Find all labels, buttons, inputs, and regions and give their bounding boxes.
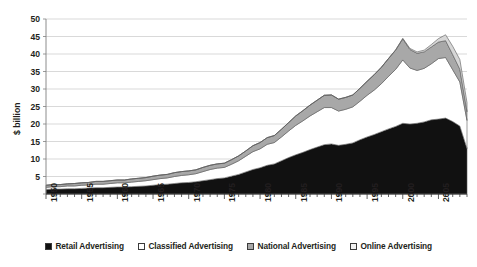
x-tick-label: 2000	[407, 183, 416, 202]
legend-swatch-retail-advertising	[45, 243, 52, 250]
legend-label-online-advertising: Online Advertising	[360, 242, 432, 250]
stacked-area-plot	[0, 0, 477, 267]
legend-swatch-online-advertising	[350, 243, 357, 250]
y-tick-label: 15	[14, 138, 40, 147]
x-tick-label: 1995	[371, 183, 380, 202]
y-tick-label: 50	[14, 15, 40, 24]
chart-figure: $ billion 5101520253035404550 1950195519…	[0, 0, 477, 267]
y-tick-label: 10	[14, 155, 40, 164]
x-tick-label: 1950	[50, 183, 59, 202]
x-tick-label: 1980	[264, 183, 273, 202]
legend-swatch-classified-advertising	[138, 243, 145, 250]
x-tick-label: 1975	[228, 183, 237, 202]
legend-label-national-advertising: National Advertising	[258, 242, 336, 250]
legend-item-retail-advertising[interactable]: Retail Advertising	[45, 242, 124, 250]
x-tick-label: 1990	[335, 183, 344, 202]
y-tick-label: 30	[14, 85, 40, 94]
legend-item-online-advertising[interactable]: Online Advertising	[350, 242, 432, 250]
y-tick-label: 25	[14, 103, 40, 112]
legend-item-classified-advertising[interactable]: Classified Advertising	[138, 242, 233, 250]
x-tick-label: 1955	[86, 183, 95, 202]
x-tick-label: 1985	[300, 183, 309, 202]
y-tick-label: 45	[14, 33, 40, 42]
y-tick-label: 20	[14, 120, 40, 129]
legend-swatch-national-advertising	[247, 243, 254, 250]
y-tick-label: 5	[14, 173, 40, 182]
y-tick-label: 35	[14, 68, 40, 77]
x-tick-label: 1965	[157, 183, 166, 202]
legend-item-national-advertising[interactable]: National Advertising	[247, 242, 336, 250]
x-tick-label: 1970	[193, 183, 202, 202]
x-tick-label: 2005	[442, 183, 451, 202]
legend-label-retail-advertising: Retail Advertising	[55, 242, 123, 250]
legend-label-classified-advertising: Classified Advertising	[148, 242, 233, 250]
x-tick-label: 1960	[121, 183, 130, 202]
chart-legend: Retail Advertising Classified Advertisin…	[0, 242, 477, 250]
y-tick-label: 40	[14, 50, 40, 59]
